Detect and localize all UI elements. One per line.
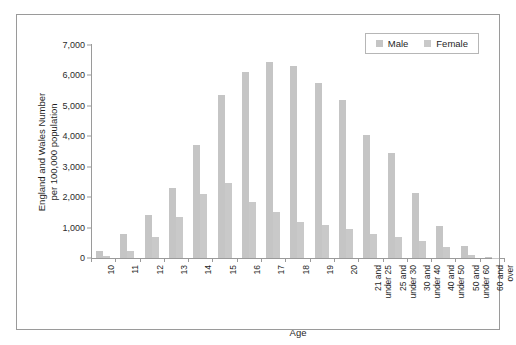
bar-group <box>358 45 382 258</box>
x-axis-tick-mark <box>455 258 456 262</box>
x-axis-tick-label: 13 <box>180 265 190 274</box>
x-axis-tick-mark <box>504 258 505 262</box>
x-axis-tick-label: 14 <box>204 265 214 274</box>
bar-female <box>492 258 499 259</box>
bar-male <box>145 215 152 258</box>
x-axis-tick-label-line: 60 and <box>495 265 505 291</box>
legend-item-male: Male <box>376 38 409 49</box>
bar-group <box>310 45 334 258</box>
bar-female <box>273 212 280 258</box>
bar-female <box>346 229 353 258</box>
legend-label: Female <box>436 38 468 49</box>
bar-group <box>140 45 164 258</box>
x-axis-tick-label: 30 andunder 40 <box>423 265 442 299</box>
x-axis-tick-label-line: 20 <box>349 265 359 274</box>
x-axis-tick-label: 19 <box>326 265 336 274</box>
x-axis-tick-mark <box>164 258 165 262</box>
x-axis-tick-label: 20 <box>350 265 360 274</box>
x-axis-tick-label: 40 andunder 50 <box>447 265 466 299</box>
x-axis-tick-label-line: 30 and <box>422 265 432 291</box>
bar-group <box>455 45 479 258</box>
x-axis-tick-label-line: 18 <box>301 265 311 274</box>
x-axis-tick-label-line: 15 <box>228 265 238 274</box>
x-axis-tick-label-line: under 25 <box>384 265 394 299</box>
bar-female <box>419 241 426 258</box>
bar-group <box>212 45 236 258</box>
x-axis-tick-label-line: under 50 <box>457 265 467 299</box>
bar-female <box>370 234 377 258</box>
x-axis-tick-mark <box>285 258 286 262</box>
x-axis-tick-label-line: 17 <box>276 265 286 274</box>
bar-female <box>127 251 134 258</box>
x-axis-tick-label: 18 <box>302 265 312 274</box>
x-axis-tick-mark <box>115 258 116 262</box>
bar-male <box>218 95 225 258</box>
x-axis-tick-mark <box>358 258 359 262</box>
bar-female <box>468 255 475 258</box>
bar-female <box>297 222 304 259</box>
x-axis-tick-label-line: under 60 <box>481 265 491 299</box>
x-axis-tick-label-line: 21 and <box>373 265 383 291</box>
x-axis-tick-label: 17 <box>277 265 287 274</box>
chart-legend: MaleFemale <box>365 33 479 54</box>
plot-area: 01,0002,0003,0004,0005,0006,0007,000 101… <box>91 45 504 258</box>
x-axis-tick-label-line: 16 <box>252 265 262 274</box>
x-axis-tick-label: 60 andover <box>496 265 515 291</box>
bar-female <box>200 194 207 258</box>
legend-swatch-icon <box>376 40 383 47</box>
x-axis-tick-mark <box>188 258 189 262</box>
bar-female <box>103 256 110 258</box>
legend-item-female: Female <box>424 38 468 49</box>
bar-male <box>412 193 419 258</box>
y-axis-title: England and Wales Number per 100,000 pop… <box>39 45 55 258</box>
bar-group <box>383 45 407 258</box>
x-axis-tick-mark <box>261 258 262 262</box>
bar-male <box>266 62 273 258</box>
x-axis-tick-label-line: 14 <box>203 265 213 274</box>
x-axis-tick-mark <box>140 258 141 262</box>
x-axis-tick-label: 25 andunder 30 <box>399 265 418 299</box>
y-axis-title-line1: England and Wales Number <box>36 92 47 210</box>
x-axis-tick-label: 16 <box>253 265 263 274</box>
bar-group <box>261 45 285 258</box>
x-axis-tick-label-line: 13 <box>179 265 189 274</box>
bar-group <box>285 45 309 258</box>
bar-male <box>461 246 468 258</box>
bar-group <box>164 45 188 258</box>
bar-male <box>242 72 249 258</box>
y-axis-title-text: England and Wales Number per 100,000 pop… <box>36 52 59 252</box>
chart-frame: England and Wales Number per 100,000 pop… <box>16 14 500 330</box>
bar-male <box>193 145 200 258</box>
bar-male <box>315 83 322 258</box>
bar-male <box>169 188 176 258</box>
bar-male <box>485 257 492 258</box>
legend-swatch-icon <box>424 40 431 47</box>
bar-group <box>237 45 261 258</box>
x-axis-tick-label-line: 19 <box>325 265 335 274</box>
x-axis-tick-label: 12 <box>156 265 166 274</box>
x-axis-tick-mark <box>212 258 213 262</box>
x-axis-tick-label: 10 <box>107 265 117 274</box>
legend-label: Male <box>388 38 409 49</box>
x-axis-tick-label-line: 25 and <box>398 265 408 291</box>
bar-female <box>443 247 450 258</box>
bar-male <box>96 251 103 258</box>
x-axis-tick-mark <box>237 258 238 262</box>
x-axis-tick-label-line: 11 <box>130 265 140 274</box>
x-axis-tick-label-line: over <box>505 265 515 291</box>
x-axis-tick-label-line: 40 and <box>446 265 456 291</box>
bar-female <box>225 183 232 258</box>
x-axis-line <box>91 258 505 259</box>
x-axis-tick-mark <box>383 258 384 262</box>
x-axis-tick-mark <box>310 258 311 262</box>
x-axis-tick-label-line: under 30 <box>408 265 418 299</box>
x-axis-tick-label: 50 andunder 60 <box>472 265 491 299</box>
x-axis-tick-label: 11 <box>131 265 141 274</box>
bar-group <box>91 45 115 258</box>
bar-male <box>120 234 127 258</box>
x-axis-tick-label: 21 andunder 25 <box>374 265 393 299</box>
bar-group <box>334 45 358 258</box>
bar-male <box>388 153 395 258</box>
x-axis-tick-mark <box>334 258 335 262</box>
bar-male <box>363 135 370 258</box>
